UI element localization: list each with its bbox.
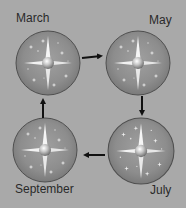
disc-may	[106, 31, 170, 95]
label-march: March	[16, 11, 49, 25]
disc-july	[108, 118, 174, 184]
disc-march	[16, 31, 80, 95]
disc-september	[13, 118, 77, 182]
cycle-diagram	[0, 0, 186, 208]
arrow-march-to-may	[82, 56, 101, 58]
label-july: July	[150, 183, 171, 197]
label-september: September	[15, 182, 74, 196]
label-may: May	[149, 13, 172, 27]
